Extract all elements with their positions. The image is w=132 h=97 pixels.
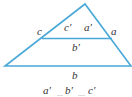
- ratio-separator: [57, 95, 63, 96]
- ratio-a-prime: a′: [43, 85, 51, 96]
- label-a: a: [111, 26, 117, 37]
- label-a-prime: a′: [84, 22, 92, 33]
- triangle-diagram: [0, 0, 132, 97]
- label-b-prime: b′: [72, 42, 80, 53]
- label-b: b: [72, 70, 78, 81]
- ratio-b-prime: b′: [65, 85, 73, 96]
- label-c-prime: c′: [64, 22, 71, 33]
- label-c: c: [37, 26, 42, 37]
- ratio-c-prime: c′: [88, 85, 95, 96]
- ratio-separator: [78, 95, 85, 96]
